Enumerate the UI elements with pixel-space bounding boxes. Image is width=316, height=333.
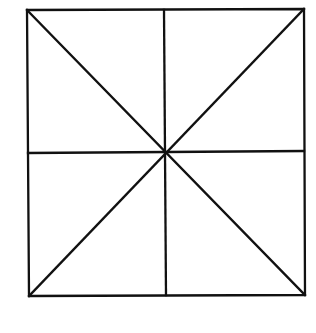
square-diagram: [0, 0, 316, 333]
horizontal-midline: [28, 151, 304, 153]
